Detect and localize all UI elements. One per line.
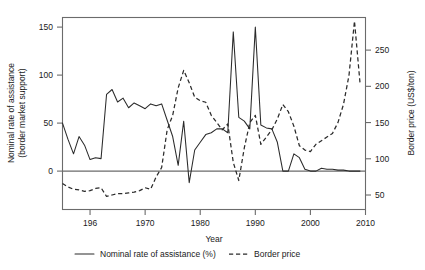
x-tick-label: 1990 bbox=[246, 218, 265, 228]
y2-tick-label: 250 bbox=[375, 45, 389, 55]
chart-figure: Nominal rate of assistance (border marke… bbox=[0, 0, 425, 270]
legend-label-0: Nominal rate of assistance (%) bbox=[100, 249, 216, 259]
series-line-dashed bbox=[63, 21, 360, 196]
y-axis-title-line1: Nominal rate of assistance bbox=[6, 63, 16, 163]
y-tick-label: 0 bbox=[48, 166, 53, 176]
x-tick-label: 196 bbox=[83, 218, 97, 228]
y2-tick-label: 150 bbox=[375, 118, 389, 128]
y-tick-label: 50 bbox=[44, 118, 54, 128]
plot-frame bbox=[63, 18, 366, 210]
y2-tick-label: 50 bbox=[375, 190, 385, 200]
chart-svg: Nominal rate of assistance (border marke… bbox=[0, 0, 425, 270]
x-tick-label: 1980 bbox=[191, 218, 210, 228]
x-tick-label: 2010 bbox=[356, 218, 375, 228]
y-axis-title-line2: (border market support) bbox=[17, 68, 27, 157]
data-series-group bbox=[63, 21, 360, 196]
y-tick-label: 150 bbox=[39, 22, 53, 32]
y2-tick-label: 100 bbox=[375, 154, 389, 164]
series-line-solid bbox=[63, 27, 360, 183]
chart-legend: Nominal rate of assistance (%)Border pri… bbox=[75, 249, 301, 259]
y-axis-ticks: 050100150 bbox=[39, 22, 63, 176]
x-axis-title: Year bbox=[205, 234, 222, 244]
y-tick-label: 100 bbox=[39, 70, 53, 80]
y2-axis-title: Border price (US$/ton) bbox=[406, 70, 416, 155]
y2-tick-label: 200 bbox=[375, 81, 389, 91]
y2-axis-ticks: 50100150200250 bbox=[366, 45, 390, 200]
x-axis-ticks: 19619701980199020002010 bbox=[83, 210, 375, 229]
legend-label-1: Border price bbox=[254, 249, 301, 259]
x-tick-label: 1970 bbox=[136, 218, 155, 228]
x-tick-label: 2000 bbox=[301, 218, 320, 228]
